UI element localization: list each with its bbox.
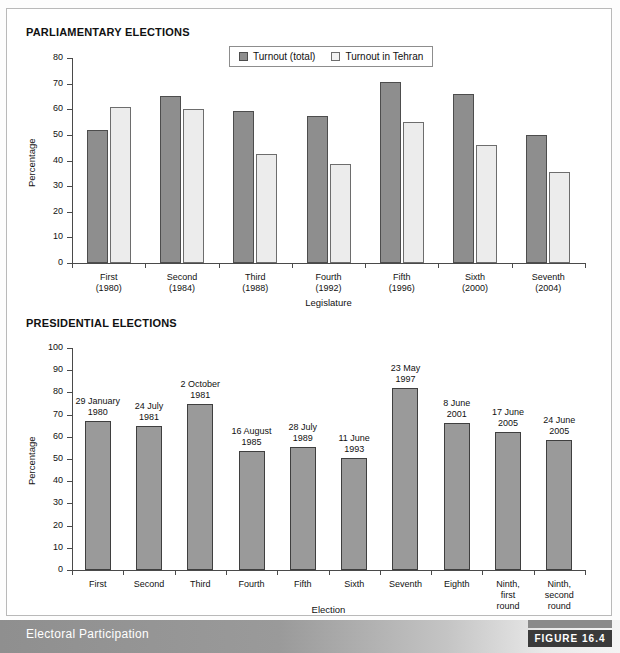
- x-axis-tick: [365, 263, 366, 268]
- x-axis-tick: [123, 570, 124, 575]
- x-axis-category-label: Fifth(1996): [365, 272, 438, 294]
- y-axis-tick-label: 10: [37, 543, 63, 552]
- x-axis-category-label: Third: [175, 579, 226, 590]
- bar-parliamentary-5-tehran: [476, 145, 497, 263]
- x-axis-tick: [482, 570, 483, 575]
- x-axis-category-line: Third: [219, 272, 292, 283]
- x-axis-tick: [585, 263, 586, 268]
- bar-annotation-line: 2 October: [156, 379, 244, 390]
- bar-parliamentary-4-total: [380, 82, 401, 263]
- y-axis-tick-label: 30: [37, 181, 63, 190]
- x-axis-tick: [380, 570, 381, 575]
- x-axis-category-line: Ninth,: [534, 579, 585, 590]
- x-axis-tick: [219, 263, 220, 268]
- bar-annotation-line: 1993: [310, 444, 398, 455]
- x-axis-title: Legislature: [72, 297, 585, 308]
- figure-footer: Electoral Participation FIGURE 16.4: [0, 620, 620, 653]
- bar-parliamentary-1-total: [160, 96, 181, 263]
- x-axis-category-label: Seventh(2004): [512, 272, 585, 294]
- x-axis-tick: [534, 570, 535, 575]
- x-axis-category-line: Fourth: [226, 579, 277, 590]
- x-axis-tick: [145, 263, 146, 268]
- x-axis-category-line: (1984): [145, 283, 218, 294]
- x-axis-category-label: Eighth: [431, 579, 482, 590]
- x-axis-category-label: First: [72, 579, 123, 590]
- x-axis-category-line: Fourth: [292, 272, 365, 283]
- bar-presidential-0: [85, 421, 111, 570]
- bar-annotation-line: 24 June: [515, 415, 603, 426]
- y-axis-tick: [67, 459, 72, 460]
- x-axis-category-line: Sixth: [438, 272, 511, 283]
- bar-annotation-line: 24 July: [105, 401, 193, 412]
- legend-swatch-tehran: [331, 52, 340, 61]
- y-axis-tick: [67, 437, 72, 438]
- y-axis-tick-label: 90: [37, 365, 63, 374]
- x-axis-category-label: Sixth(2000): [438, 272, 511, 294]
- x-axis-title: Election: [72, 604, 585, 615]
- x-axis-tick: [292, 263, 293, 268]
- y-axis-tick-label: 20: [37, 521, 63, 530]
- x-axis-category-line: Ninth,: [482, 579, 533, 590]
- y-axis-tick: [67, 237, 72, 238]
- parliamentary-chart: 01020304050607080PercentageFirst(1980)Se…: [0, 0, 620, 310]
- y-axis-line: [72, 348, 73, 570]
- bar-presidential-3: [239, 451, 265, 570]
- y-axis-tick-label: 10: [37, 232, 63, 241]
- y-axis-tick-label: 40: [37, 476, 63, 485]
- y-axis-tick-label: 30: [37, 498, 63, 507]
- bar-presidential-9: [546, 440, 572, 570]
- bar-annotation-line: 2005: [515, 426, 603, 437]
- y-axis-tick: [67, 161, 72, 162]
- y-axis-tick: [67, 186, 72, 187]
- y-axis-tick-label: 50: [37, 130, 63, 139]
- bar-annotation-line: 11 June: [310, 433, 398, 444]
- y-axis-tick: [67, 392, 72, 393]
- bar-presidential-5: [341, 458, 367, 570]
- y-axis-tick-label: 100: [37, 343, 63, 352]
- y-axis-tick-label: 0: [37, 565, 63, 574]
- x-axis-category-label: Seventh: [380, 579, 431, 590]
- x-axis-category-label: Sixth: [329, 579, 380, 590]
- bar-parliamentary-4-tehran: [403, 122, 424, 263]
- x-axis-tick: [72, 263, 73, 268]
- figure-badge-tab: [528, 620, 612, 628]
- bar-parliamentary-5-total: [453, 94, 474, 263]
- y-axis-tick-label: 50: [37, 454, 63, 463]
- x-axis-category-line: Seventh: [512, 272, 585, 283]
- x-axis-category-line: (1992): [292, 283, 365, 294]
- x-axis-category-line: (2000): [438, 283, 511, 294]
- bar-parliamentary-6-total: [526, 135, 547, 263]
- bar-parliamentary-3-total: [307, 116, 328, 263]
- legend-item-total: Turnout (total): [239, 51, 315, 62]
- legend-label-total: Turnout (total): [253, 51, 315, 62]
- y-axis-tick-label: 80: [37, 387, 63, 396]
- chart-legend: Turnout (total) Turnout in Tehran: [229, 46, 433, 67]
- presidential-chart: 0102030405060708090100Percentage29 Janua…: [0, 330, 620, 620]
- x-axis-category-label: Second: [123, 579, 174, 590]
- y-axis-tick: [67, 109, 72, 110]
- bar-annotation: 24 July1981: [105, 401, 193, 423]
- figure-caption: Electoral Participation: [26, 627, 149, 641]
- legend-item-tehran: Turnout in Tehran: [331, 51, 423, 62]
- y-axis-tick: [67, 84, 72, 85]
- bar-presidential-7: [444, 423, 470, 570]
- y-axis-title: Percentage: [26, 436, 37, 485]
- bar-parliamentary-0-tehran: [110, 107, 131, 263]
- x-axis-category-label: Third(1988): [219, 272, 292, 294]
- bar-annotation: 23 May1997: [361, 363, 449, 385]
- x-axis-category-line: first: [482, 590, 533, 601]
- bar-parliamentary-2-tehran: [256, 154, 277, 263]
- x-axis-tick: [431, 570, 432, 575]
- x-axis-category-line: First: [72, 272, 145, 283]
- x-axis-category-line: Eighth: [431, 579, 482, 590]
- bar-parliamentary-6-tehran: [549, 172, 570, 263]
- y-axis-tick-label: 60: [37, 104, 63, 113]
- x-axis-category-line: (1996): [365, 283, 438, 294]
- bar-presidential-8: [495, 432, 521, 570]
- x-axis-category-line: Sixth: [329, 579, 380, 590]
- bar-presidential-1: [136, 426, 162, 570]
- x-axis-category-line: First: [72, 579, 123, 590]
- bar-annotation: 24 June2005: [515, 415, 603, 437]
- y-axis-tick-label: 20: [37, 207, 63, 216]
- x-axis-category-line: Seventh: [380, 579, 431, 590]
